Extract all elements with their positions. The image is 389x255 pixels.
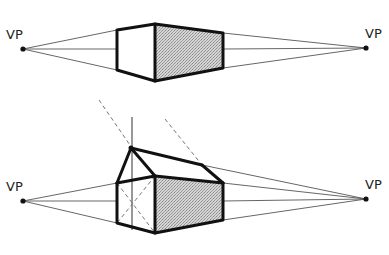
gable-left-edge xyxy=(117,148,131,183)
top-box xyxy=(117,24,223,81)
vp-label-top-left: VP xyxy=(6,28,23,41)
vp-label-bottom-right: VP xyxy=(365,178,382,191)
vanishing-point-right-dot xyxy=(363,45,368,50)
top-figure xyxy=(20,24,368,81)
vanishing-point-right-dot-bottom xyxy=(363,196,368,201)
vp-label-bottom-left: VP xyxy=(6,180,23,193)
house-right-face-shaded xyxy=(155,176,223,233)
roof-pitch-dashed-left xyxy=(99,100,132,148)
house xyxy=(117,146,223,234)
vp-label-top-right: VP xyxy=(365,27,382,40)
vanishing-point-left-dot xyxy=(20,46,25,51)
diagram-canvas xyxy=(0,0,389,255)
bottom-figure xyxy=(20,100,368,233)
ridge-apex-point xyxy=(129,146,134,151)
vanishing-point-left-dot-bottom xyxy=(20,198,25,203)
